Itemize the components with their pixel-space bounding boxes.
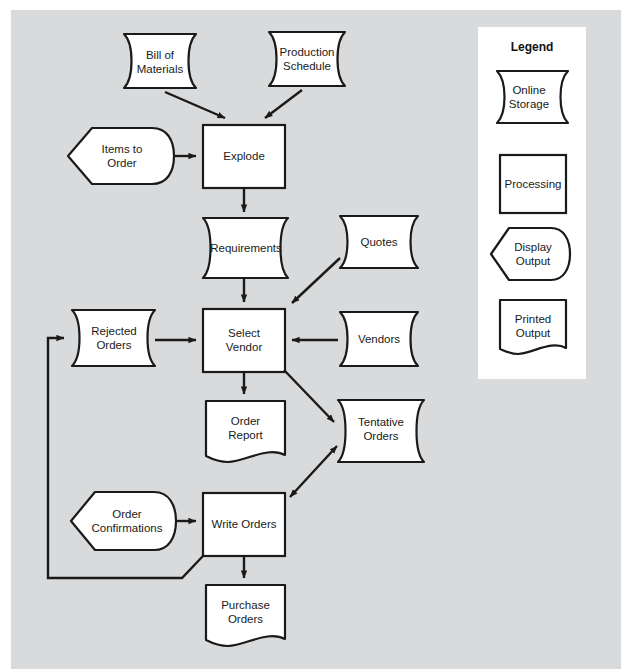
node-bill-of-materials[interactable] [124, 34, 196, 88]
node-write-orders[interactable] [203, 493, 285, 556]
edge-quotes-to-select-vendor [292, 258, 340, 303]
edge-production-schedule-to-explode [265, 90, 302, 118]
edge-bill-of-materials-to-explode [165, 92, 225, 118]
legend-label-display-output: Display Output [500, 240, 566, 268]
node-order-report[interactable] [206, 401, 285, 462]
legend-label-online-storage: Online Storage [497, 83, 561, 111]
node-production-schedule[interactable] [269, 32, 345, 86]
node-quotes[interactable] [340, 216, 418, 268]
flowchart-screenshot: Bill of Materials Production Schedule It… [0, 0, 621, 669]
node-purchase-orders[interactable] [206, 585, 285, 646]
node-tentative-orders[interactable] [338, 400, 424, 462]
node-vendors[interactable] [340, 312, 418, 366]
node-order-confirmations[interactable] [71, 492, 176, 550]
legend-label-processing: Processing [500, 177, 566, 191]
edge-write-orders-to-tentative-orders [290, 446, 337, 497]
node-select-vendor[interactable] [203, 309, 285, 372]
legend-label-printed-output: Printed Output [500, 312, 566, 340]
node-items-to-order[interactable] [68, 128, 174, 184]
edge-select-vendor-to-tentative-orders [284, 370, 334, 422]
legend-title: Legend [478, 40, 586, 54]
node-requirements[interactable] [203, 218, 288, 278]
node-explode[interactable] [203, 125, 285, 188]
node-rejected-orders[interactable] [72, 310, 155, 366]
